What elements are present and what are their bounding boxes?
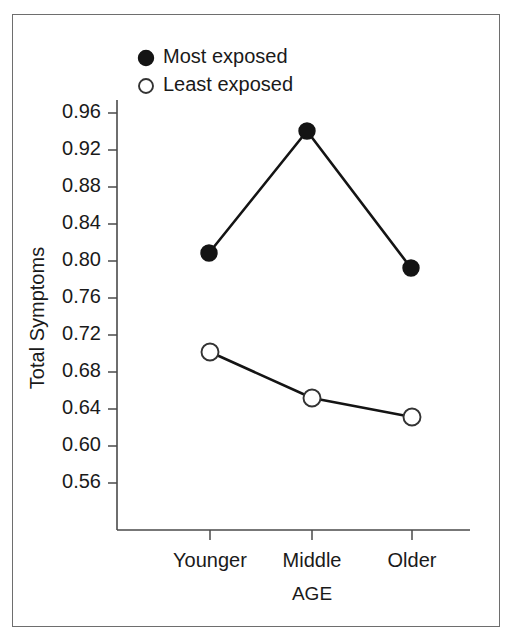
- series-line-most-exposed: [209, 131, 411, 268]
- y-tick-label: 0.76: [62, 285, 101, 307]
- data-point: [404, 409, 421, 426]
- y-tick-label: 0.92: [62, 137, 101, 159]
- y-tick-label: 0.68: [62, 359, 101, 381]
- legend-marker-open-circle-icon: [139, 79, 153, 93]
- legend-label-least-exposed: Least exposed: [163, 73, 293, 95]
- y-tick-label: 0.88: [62, 174, 101, 196]
- x-axis-title: AGE: [292, 583, 332, 604]
- y-axis-title: Total Symptoms: [26, 247, 48, 389]
- data-point: [201, 245, 217, 261]
- figure-container: 0.96 0.92 0.88 0.84 0.80 0.76 0.72 0.68 …: [0, 0, 514, 643]
- y-tick-marks: [108, 113, 117, 483]
- legend-marker-filled-circle-icon: [139, 51, 154, 66]
- data-point: [403, 260, 419, 276]
- x-tick-labels: Younger Middle Older: [173, 549, 437, 571]
- line-chart: 0.96 0.92 0.88 0.84 0.80 0.76 0.72 0.68 …: [0, 0, 514, 643]
- axis-group: [117, 100, 470, 530]
- x-tick-label: Younger: [173, 549, 247, 571]
- data-point: [299, 123, 315, 139]
- y-tick-label: 0.64: [62, 396, 101, 418]
- y-tick-label: 0.96: [62, 100, 101, 122]
- series-most-exposed: [201, 123, 419, 276]
- x-tick-marks: [210, 530, 412, 540]
- legend-label-most-exposed: Most exposed: [163, 45, 288, 67]
- y-tick-labels: 0.96 0.92 0.88 0.84 0.80 0.76 0.72 0.68 …: [62, 100, 101, 492]
- y-tick-label: 0.56: [62, 470, 101, 492]
- y-tick-label: 0.72: [62, 322, 101, 344]
- y-tick-label: 0.60: [62, 433, 101, 455]
- y-tick-label: 0.84: [62, 211, 101, 233]
- data-point: [202, 344, 219, 361]
- legend: Most exposed Least exposed: [139, 45, 294, 95]
- x-tick-label: Middle: [283, 549, 342, 571]
- x-tick-label: Older: [388, 549, 437, 571]
- data-point: [304, 390, 321, 407]
- series-least-exposed: [202, 344, 421, 426]
- y-tick-label: 0.80: [62, 248, 101, 270]
